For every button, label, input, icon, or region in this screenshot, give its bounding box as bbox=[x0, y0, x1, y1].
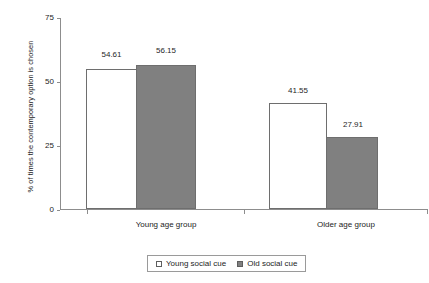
legend-item-old-social-cue: Old social cue bbox=[237, 259, 297, 268]
y-tick-mark-75 bbox=[57, 18, 60, 19]
bar-young-age-old-cue bbox=[136, 65, 196, 209]
y-tick-label-25: 25 bbox=[26, 142, 54, 150]
y-tick-mark-25 bbox=[57, 146, 60, 147]
bar-young-age-young-cue bbox=[86, 69, 137, 209]
y-axis-title: % of times the contemporary option is ch… bbox=[26, 17, 35, 217]
y-axis-line bbox=[60, 18, 61, 210]
x-axis-label-older-age-group: Older age group bbox=[266, 220, 426, 229]
legend-label-old-social-cue: Old social cue bbox=[247, 259, 297, 268]
light-square-icon bbox=[156, 261, 162, 267]
bar-value-young-age-old-cue: 56.15 bbox=[136, 46, 196, 55]
x-tick-mark-left bbox=[87, 210, 88, 214]
plot-area: 75 50 25 0 54.61 56.15 41.55 27.91 Young… bbox=[60, 18, 428, 210]
y-tick-label-0: 0 bbox=[26, 206, 54, 214]
dark-square-icon bbox=[237, 261, 243, 267]
bar-value-older-age-young-cue: 41.55 bbox=[267, 86, 329, 95]
y-tick-label-75: 75 bbox=[26, 14, 54, 22]
y-tick-mark-0 bbox=[57, 210, 60, 211]
x-tick-mark-middle bbox=[244, 210, 245, 214]
bar-value-older-age-old-cue: 27.91 bbox=[322, 120, 384, 129]
legend-item-young-social-cue: Young social cue bbox=[156, 259, 226, 268]
bar-older-age-old-cue bbox=[326, 137, 378, 209]
chart-legend: Young social cue Old social cue bbox=[147, 255, 306, 272]
x-axis-label-young-age-group: Young age group bbox=[86, 220, 246, 229]
bar-older-age-young-cue bbox=[269, 103, 327, 209]
bar-chart-figure: % of times the contemporary option is ch… bbox=[0, 0, 429, 283]
y-tick-mark-50 bbox=[57, 82, 60, 83]
legend-label-young-social-cue: Young social cue bbox=[166, 259, 226, 268]
y-tick-label-50: 50 bbox=[26, 78, 54, 86]
x-tick-mark-right bbox=[427, 210, 428, 214]
bar-value-young-age-young-cue: 54.61 bbox=[81, 50, 142, 59]
